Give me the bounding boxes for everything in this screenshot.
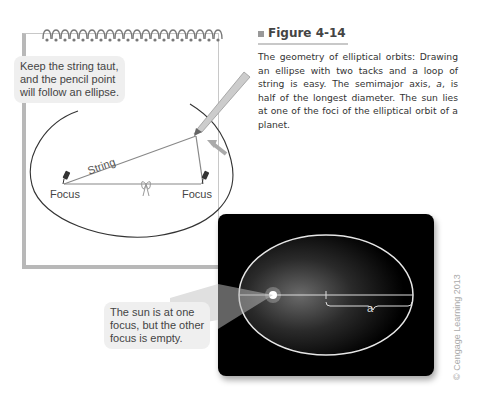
copyright-credit: © Cengage Learning 2013 [452, 274, 462, 380]
semimajor-axis-label: a [367, 302, 373, 314]
figure-caption: The geometry of elliptical orbits: Drawi… [258, 50, 458, 131]
spiral-binding-icon [40, 27, 226, 43]
sun-callout: The sun is at one focus, but the other f… [104, 302, 210, 349]
focus-left-label: Focus [50, 188, 80, 200]
pencil-icon [194, 72, 250, 136]
figure-title: Figure 4-14 [258, 26, 348, 45]
focus-right-label: Focus [182, 188, 212, 200]
right-tack-icon [201, 171, 209, 184]
notepad-callout: Keep the string taut, and the pencil poi… [14, 56, 125, 103]
orbit-panel: a [218, 214, 434, 376]
orbit-diagram [218, 214, 434, 376]
